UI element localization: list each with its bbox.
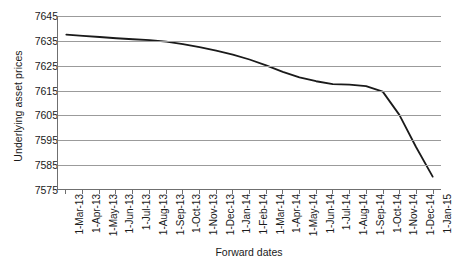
- gridline: [58, 140, 441, 141]
- gridline: [58, 16, 441, 17]
- x-axis-tick-label: 1-Nov-13: [209, 194, 219, 246]
- x-axis-tick-label: 1-Dec-14: [426, 194, 436, 246]
- gridline: [58, 115, 441, 116]
- plot-area: [57, 16, 441, 190]
- x-axis-tick-label: 1-May-13: [109, 194, 119, 246]
- x-axis-tick-label: 1-Mar-13: [75, 194, 85, 246]
- y-axis-tick-labels: 76457635762576157605759575857575: [22, 0, 58, 264]
- gridline: [58, 91, 441, 92]
- x-axis-tick-label: 1-May-14: [309, 194, 319, 246]
- x-axis-tick-label: 1-Aug-14: [359, 194, 369, 246]
- x-axis-tick-label: 1-Jan-14: [242, 194, 252, 246]
- x-axis-title: Forward dates: [57, 246, 441, 258]
- x-axis-tick-label: 1-Jul-14: [342, 194, 352, 246]
- x-axis-tick-label: 1-Nov-14: [409, 194, 419, 246]
- x-axis-tick-label: 1-Apr-13: [92, 194, 102, 246]
- gridline: [58, 66, 441, 67]
- x-axis-tick-label: 1-Jun-14: [326, 194, 336, 246]
- y-axis-tick-label: 7645: [22, 11, 58, 21]
- x-axis-tick-label: 1-Mar-14: [276, 194, 286, 246]
- gridline: [58, 41, 441, 42]
- x-axis-tick-label: 1-Dec-13: [226, 194, 236, 246]
- x-axis-tick-label: 1-Apr-14: [292, 194, 302, 246]
- x-axis-tick-label: 1-Feb-14: [259, 194, 269, 246]
- series-line: [58, 16, 441, 189]
- y-axis-tick-label: 7595: [22, 135, 58, 145]
- gridline: [58, 165, 441, 166]
- y-axis-tick-label: 7605: [22, 110, 58, 120]
- x-axis-tick-label: 1-Jul-13: [142, 194, 152, 246]
- x-axis-tick-label: 1-Sep-14: [376, 194, 386, 246]
- x-axis-tick-label: 1-Jun-13: [125, 194, 135, 246]
- y-axis-tick-label: 7635: [22, 36, 58, 46]
- x-axis-tick-label: 1-Oct-13: [192, 194, 202, 246]
- x-axis-tick-label: 1-Sep-13: [176, 194, 186, 246]
- x-axis-tick-label: 1-Oct-14: [393, 194, 403, 246]
- forward-curve-chart: Underlying asset prices 7645763576257615…: [0, 0, 452, 264]
- y-axis-tick-label: 7575: [22, 185, 58, 195]
- y-axis-tick-label: 7615: [22, 86, 58, 96]
- y-axis-tick-label: 7585: [22, 160, 58, 170]
- x-axis-tick-labels: 1-Mar-131-Apr-131-May-131-Jun-131-Jul-13…: [57, 194, 441, 244]
- x-axis-tick-label: 1-Aug-13: [159, 194, 169, 246]
- x-axis-tick-label: 1-Jan-15: [443, 194, 452, 246]
- y-axis-tick-label: 7625: [22, 61, 58, 71]
